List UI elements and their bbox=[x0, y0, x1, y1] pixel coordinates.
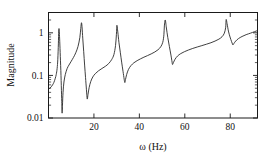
x-tick-label: 20 bbox=[89, 122, 99, 132]
y-tick-label: 0.1 bbox=[32, 71, 44, 81]
chart-figure: 0.010.11 20406080 ω (Hz) Magnitude bbox=[0, 0, 270, 156]
y-tick-label: 0.01 bbox=[27, 113, 44, 123]
x-tick-label: 80 bbox=[225, 122, 235, 132]
y-tick-label: 1 bbox=[39, 28, 44, 38]
frequency-response-plot: 0.010.11 20406080 ω (Hz) Magnitude bbox=[0, 0, 270, 156]
x-axis-title: ω (Hz) bbox=[139, 141, 166, 153]
x-tick-label: 40 bbox=[135, 122, 145, 132]
y-axis-title: Magnitude bbox=[5, 43, 16, 87]
x-tick-label: 60 bbox=[180, 122, 190, 132]
